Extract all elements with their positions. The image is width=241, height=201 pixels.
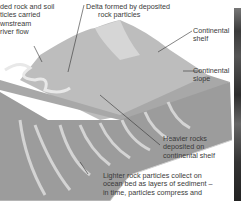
diagram-canvas: ded rock and soil ticles carried wnstrea… [0, 0, 241, 201]
adjacent-photo-strip [234, 8, 241, 201]
label-continental-slope: Continental slope [193, 67, 229, 84]
label-heavier-rocks: Heavier rocks deposited on continental s… [163, 135, 215, 160]
label-delta: Delta formed by deposited rock particles [86, 3, 170, 20]
label-lighter-particles: Lighter rock particles collect on ocean … [103, 172, 212, 197]
label-eroded-particles: ded rock and soil ticles carried wnstrea… [0, 3, 54, 37]
label-continental-shelf: Continental shelf [193, 27, 229, 44]
